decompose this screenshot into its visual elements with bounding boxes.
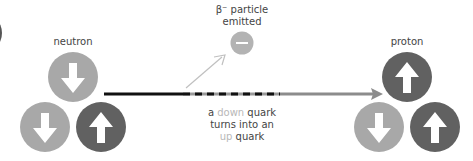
down-highlight: down [217, 107, 244, 118]
neutron [20, 52, 126, 152]
minus-icon [236, 42, 248, 44]
emission-arrowhead-icon [214, 55, 225, 65]
beta-label-line2: emitted [207, 16, 277, 28]
caption-text: a [208, 107, 217, 118]
neutron-label: neutron [43, 36, 103, 48]
partial-particle [0, 13, 2, 53]
caption-text: quark [232, 131, 264, 142]
proton-label: proton [377, 36, 437, 48]
proton [354, 52, 460, 152]
beta-label-line1: β⁻ particle [207, 4, 277, 16]
beta-label: β⁻ particle emitted [207, 4, 277, 28]
quark-change-caption: a down quark turns into an up quark [200, 107, 284, 143]
caption-text: quark [244, 107, 276, 118]
emission-arrow [186, 57, 222, 88]
up-highlight: up [220, 131, 233, 142]
caption-text: turns into an [200, 119, 284, 131]
